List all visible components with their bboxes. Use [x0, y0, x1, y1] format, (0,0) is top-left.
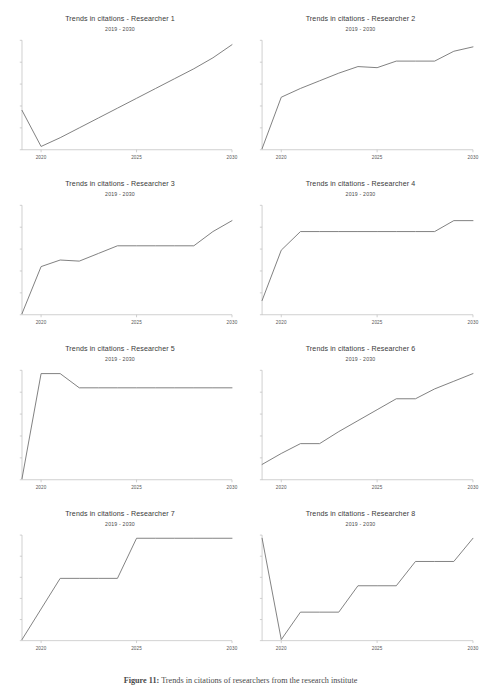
chart-plot-area: 202020252030: [0, 364, 240, 505]
chart-panel-researcher-6: Trends in citations - Researcher 62019 -…: [240, 340, 481, 505]
figure-caption-label: Figure 11:: [124, 676, 160, 685]
figure-caption-text: Trends in citations of researchers from …: [161, 676, 357, 685]
x-tick-label: 2030: [468, 485, 479, 490]
x-tick-label: 2025: [131, 155, 142, 160]
chart-title: Trends in citations - Researcher 1: [0, 10, 240, 23]
x-tick-label: 2020: [276, 646, 287, 651]
chart-subtitle: 2019 - 2030: [0, 188, 240, 197]
figure-caption: Figure 11: Trends in citations of resear…: [0, 672, 481, 689]
x-tick-label: 2020: [36, 155, 47, 160]
chart-plot-area: 202020252030: [240, 34, 481, 175]
chart-subtitle: 2019 - 2030: [0, 353, 240, 362]
figure-chart-grid: Trends in citations - Researcher 12019 -…: [0, 10, 481, 665]
chart-plot-area: 202020252030: [240, 199, 481, 340]
chart-panel-researcher-8: Trends in citations - Researcher 82019 -…: [240, 505, 481, 665]
x-tick-label: 2020: [276, 320, 287, 325]
citation-trend-line: [22, 45, 232, 147]
x-tick-label: 2025: [131, 646, 142, 651]
citation-trend-line: [262, 47, 473, 149]
chart-title: Trends in citations - Researcher 7: [0, 505, 240, 518]
chart-panel-researcher-3: Trends in citations - Researcher 32019 -…: [0, 175, 240, 340]
citation-trend-line: [22, 374, 232, 479]
x-tick-label: 2025: [372, 320, 383, 325]
citation-trend-line: [262, 538, 473, 639]
citation-trend-line: [262, 221, 473, 301]
citation-trend-line: [22, 221, 232, 314]
chart-title: Trends in citations - Researcher 5: [0, 340, 240, 353]
citation-trend-line: [262, 374, 473, 465]
chart-panel-researcher-5: Trends in citations - Researcher 52019 -…: [0, 340, 240, 505]
x-tick-label: 2020: [276, 485, 287, 490]
x-tick-label: 2030: [468, 155, 479, 160]
x-tick-label: 2030: [227, 485, 238, 490]
chart-title: Trends in citations - Researcher 4: [240, 175, 481, 188]
citation-trend-line: [22, 538, 232, 639]
chart-plot-area: 202020252030: [0, 529, 240, 665]
x-tick-label: 2020: [36, 320, 47, 325]
x-tick-label: 2025: [131, 320, 142, 325]
x-tick-label: 2025: [372, 646, 383, 651]
x-tick-label: 2030: [468, 320, 479, 325]
chart-plot-area: 202020252030: [240, 364, 481, 505]
x-tick-label: 2025: [131, 485, 142, 490]
chart-subtitle: 2019 - 2030: [240, 518, 481, 527]
chart-panel-researcher-1: Trends in citations - Researcher 12019 -…: [0, 10, 240, 175]
chart-panel-researcher-2: Trends in citations - Researcher 22019 -…: [240, 10, 481, 175]
x-tick-label: 2030: [468, 646, 479, 651]
x-tick-label: 2025: [372, 155, 383, 160]
x-tick-label: 2030: [227, 320, 238, 325]
chart-subtitle: 2019 - 2030: [240, 188, 481, 197]
chart-title: Trends in citations - Researcher 8: [240, 505, 481, 518]
chart-plot-area: 202020252030: [240, 529, 481, 665]
chart-subtitle: 2019 - 2030: [240, 353, 481, 362]
chart-panel-researcher-7: Trends in citations - Researcher 72019 -…: [0, 505, 240, 665]
chart-title: Trends in citations - Researcher 3: [0, 175, 240, 188]
chart-subtitle: 2019 - 2030: [0, 23, 240, 32]
x-tick-label: 2020: [36, 485, 47, 490]
chart-plot-area: 202020252030: [0, 199, 240, 340]
x-tick-label: 2020: [276, 155, 287, 160]
x-tick-label: 2025: [372, 485, 383, 490]
chart-plot-area: 202020252030: [0, 34, 240, 175]
x-tick-label: 2030: [227, 155, 238, 160]
chart-title: Trends in citations - Researcher 6: [240, 340, 481, 353]
chart-title: Trends in citations - Researcher 2: [240, 10, 481, 23]
chart-subtitle: 2019 - 2030: [240, 23, 481, 32]
x-tick-label: 2020: [36, 646, 47, 651]
x-tick-label: 2030: [227, 646, 238, 651]
chart-subtitle: 2019 - 2030: [0, 518, 240, 527]
chart-panel-researcher-4: Trends in citations - Researcher 42019 -…: [240, 175, 481, 340]
